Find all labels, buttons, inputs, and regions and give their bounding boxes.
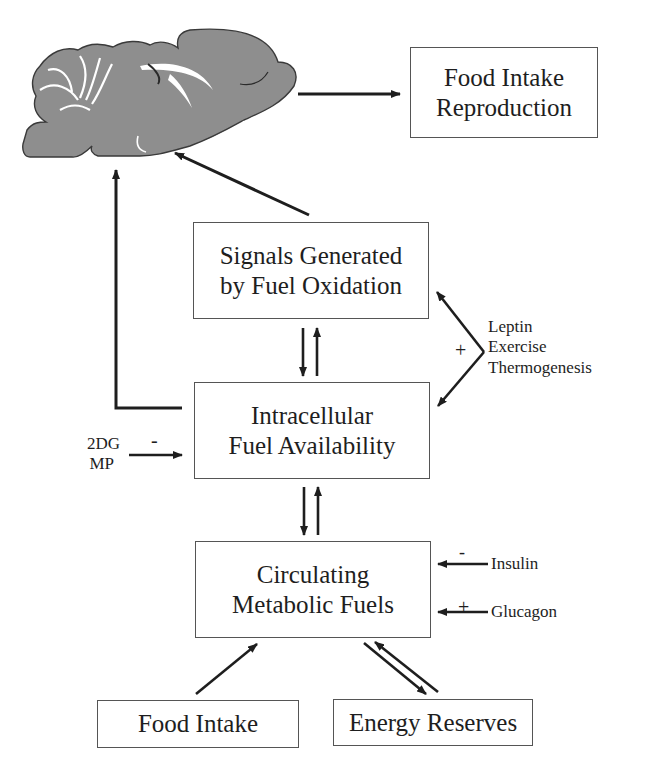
energy-reserves-label: Energy Reserves: [349, 708, 517, 738]
intracellular-line1: Intracellular: [251, 401, 373, 431]
glucagon-sign: +: [458, 597, 469, 617]
arrow-foodintake-to-circulating: [196, 644, 257, 694]
circulating-line2: Metabolic Fuels: [232, 590, 394, 620]
food-intake-box: Food Intake: [97, 700, 299, 748]
circulating-box: Circulating Metabolic Fuels: [195, 541, 431, 638]
effector-exercise: Exercise: [488, 337, 592, 357]
insulin-label: Insulin: [491, 554, 538, 574]
signals-box: Signals Generated by Fuel Oxidation: [193, 222, 429, 319]
energy-reserves-box: Energy Reserves: [333, 699, 533, 746]
outputs-line1: Food Intake: [444, 63, 564, 93]
food-intake-label: Food Intake: [138, 709, 258, 739]
outputs-line2: Reproduction: [436, 93, 572, 123]
intracellular-box: Intracellular Fuel Availability: [194, 382, 430, 479]
signals-line2: by Fuel Oxidation: [220, 271, 402, 301]
arrow-circulating-to-reserves: [364, 643, 426, 694]
arrow-reserves-to-circulating: [375, 642, 438, 692]
effectors-sign: +: [455, 340, 466, 360]
inhibitor-mp: MP: [80, 454, 120, 474]
diagram-canvas: Food Intake Reproduction Signals Generat…: [0, 0, 647, 770]
inhibitors-list: 2DG MP: [80, 434, 120, 475]
arrow-signals-to-brain: [175, 153, 309, 215]
inhibitor-2dg: 2DG: [80, 434, 120, 454]
effector-leptin: Leptin: [488, 317, 592, 337]
arrow-intracellular-to-brain: [116, 170, 182, 408]
circulating-line1: Circulating: [257, 560, 369, 590]
signals-line1: Signals Generated: [220, 241, 403, 271]
insulin-sign: -: [459, 543, 465, 561]
intracellular-line2: Fuel Availability: [229, 431, 396, 461]
effector-thermogenesis: Thermogenesis: [488, 358, 592, 378]
glucagon-label: Glucagon: [491, 602, 557, 622]
inhibitors-sign: -: [151, 430, 158, 450]
effectors-list: Leptin Exercise Thermogenesis: [488, 317, 592, 378]
outputs-box: Food Intake Reproduction: [410, 47, 598, 138]
brain-icon: [23, 29, 296, 157]
